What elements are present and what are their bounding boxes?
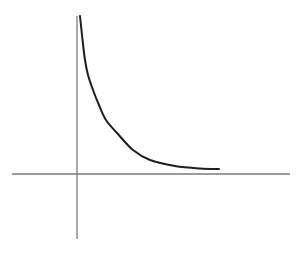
chart-canvas <box>0 0 301 254</box>
decay-curve <box>80 16 219 169</box>
